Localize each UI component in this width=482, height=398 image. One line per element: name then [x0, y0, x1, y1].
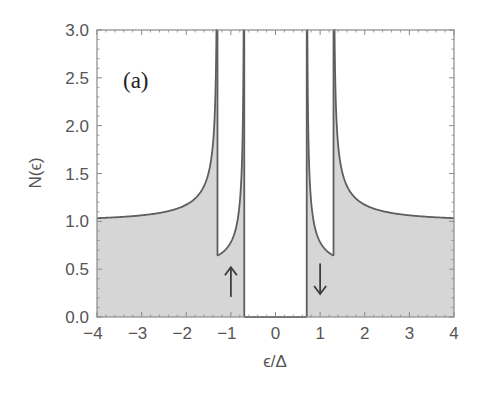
panel-label: (a) — [123, 68, 149, 93]
single-spin-dos-curve — [217, 30, 333, 256]
dos-chart: −4−3−2−101234 0.00.51.01.52.02.53.0 (a) … — [0, 0, 482, 398]
y-axis-label: N(ϵ) — [26, 157, 45, 188]
y-tick-label: 1.0 — [65, 212, 89, 231]
x-tick-label: 4 — [449, 324, 458, 343]
y-tick-label: 1.5 — [65, 165, 89, 184]
x-tick-label: 3 — [405, 324, 414, 343]
x-axis-label: ϵ/Δ — [263, 352, 287, 371]
x-tick-label: −1 — [217, 324, 236, 343]
y-tick-label: 0.5 — [65, 260, 89, 279]
y-tick-label: 3.0 — [65, 21, 89, 40]
y-tick-label: 2.5 — [65, 69, 89, 88]
x-tick-label: −2 — [173, 324, 192, 343]
x-tick-label: −3 — [128, 324, 147, 343]
total-dos-fill — [97, 30, 454, 317]
x-tick-label: 0 — [271, 324, 280, 343]
total-dos-curve — [97, 30, 454, 218]
x-tick-label: 2 — [360, 324, 369, 343]
y-tick-label: 0.0 — [65, 308, 89, 327]
y-tick-label: 2.0 — [65, 117, 89, 136]
x-tick-label: 1 — [315, 324, 324, 343]
